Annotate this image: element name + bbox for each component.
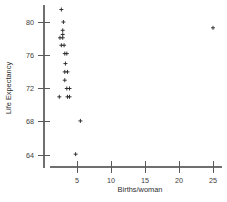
plot-canvas: 6468727680 510152025 Births/woman Life E…: [0, 0, 227, 202]
y-tick-label: 64: [26, 151, 34, 160]
data-point: [63, 62, 67, 66]
x-tick-label: 25: [209, 176, 217, 185]
data-point: [62, 43, 66, 47]
y-tick-label: 72: [26, 84, 34, 93]
y-axis-group: 6468727680: [26, 5, 50, 168]
x-axis-tick-labels: 510152025: [75, 176, 217, 185]
y-axis-title: Life Expectancy: [4, 62, 13, 114]
y-tick-label: 68: [26, 117, 34, 126]
y-tick-label: 76: [26, 51, 34, 60]
x-tick-label: 15: [141, 176, 149, 185]
data-point: [65, 70, 69, 74]
data-point: [78, 119, 82, 123]
data-point: [68, 95, 72, 99]
data-point: [61, 20, 65, 24]
x-axis-group: 510152025: [50, 161, 222, 185]
data-point: [211, 26, 215, 30]
x-tick-label: 20: [175, 176, 183, 185]
data-point: [61, 36, 65, 40]
data-point: [59, 8, 63, 12]
data-point: [65, 52, 69, 56]
x-tick-label: 5: [75, 176, 79, 185]
data-point: [63, 78, 67, 82]
y-axis-tick-labels: 6468727680: [26, 18, 34, 160]
data-point-layer: [57, 8, 215, 157]
data-point: [74, 152, 78, 156]
x-axis-title: Births/woman: [118, 185, 163, 194]
data-point: [57, 95, 61, 99]
data-point: [61, 28, 65, 32]
y-tick-label: 80: [26, 18, 34, 27]
x-tick-label: 10: [107, 176, 115, 185]
scatter-plot-figure: 6468727680 510152025 Births/woman Life E…: [0, 0, 227, 202]
data-point: [68, 87, 72, 91]
